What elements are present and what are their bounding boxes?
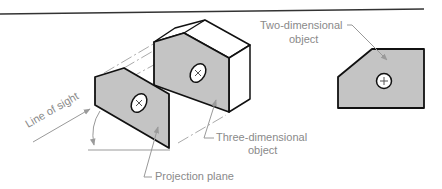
three-dimensional-label-line1: Three-dimensional: [216, 131, 307, 143]
plus-circle-icon: [377, 74, 392, 89]
orthographic-projection-diagram: Line of sight Two-dimensional object Thr…: [0, 0, 442, 189]
line-of-sight-label: Line of sight: [23, 90, 80, 130]
two-dimensional-label-line1: Two-dimensional: [260, 19, 343, 31]
top-rule: [0, 9, 424, 14]
three-dimensional-label-line2: object: [248, 144, 277, 156]
angle-arc: [93, 111, 100, 145]
projection-plane-label: Projection plane: [155, 170, 234, 182]
two-dimensional-label-line2: object: [289, 33, 318, 45]
two-dimensional-object: [338, 49, 424, 108]
